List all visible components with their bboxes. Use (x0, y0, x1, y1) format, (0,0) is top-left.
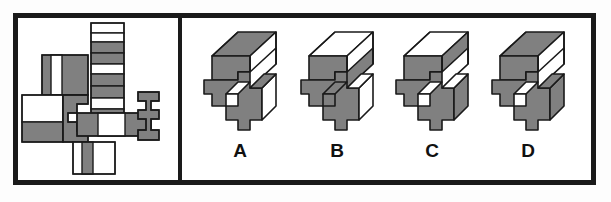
answer-figure-c (382, 22, 482, 142)
answer-figure-d (478, 22, 578, 142)
answer-figure-a-svg (190, 22, 290, 142)
answer-label-b: B (287, 140, 387, 162)
answer-option-b[interactable]: B (287, 18, 387, 180)
net-piece-right-step-face (138, 92, 159, 140)
answer-figure-d-svg (478, 22, 578, 142)
answer-label-d: D (478, 140, 578, 162)
answer-option-c[interactable]: C (382, 18, 482, 180)
net-piece-left-face (22, 95, 63, 142)
answer-figure-b (287, 22, 387, 142)
pattern-net-svg (18, 18, 178, 180)
net-piece-upper-left-face (42, 55, 88, 95)
answer-label-a: A (190, 140, 290, 162)
pattern-net-panel (18, 18, 178, 180)
question-figure: A (0, 0, 611, 202)
answer-option-a[interactable]: A (190, 18, 290, 180)
answer-figure-c-svg (382, 22, 482, 142)
net-piece-vertical-strip (91, 23, 124, 122)
answer-figure-b-svg (287, 22, 387, 142)
net-piece-bottom-face (73, 142, 115, 174)
answer-figure-a (190, 22, 290, 142)
answer-options-panel: A (182, 18, 591, 180)
answer-option-d[interactable]: D (478, 18, 578, 180)
answer-label-c: C (382, 140, 482, 162)
